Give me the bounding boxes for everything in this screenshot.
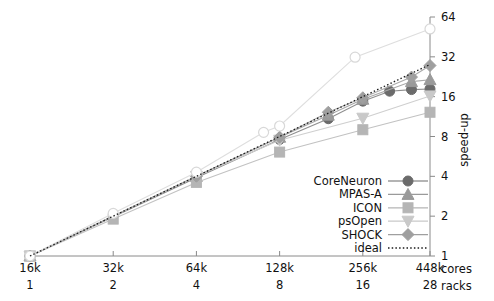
y-tick-marks [430,17,435,256]
data-point-marker [275,147,285,157]
data-point-marker [425,24,435,34]
legend-label: CoreNeuron [314,174,382,188]
legend-item-shock[interactable]: SHOCK [341,228,428,242]
x-tick-label-racks: 4 [193,278,200,292]
data-point-marker [402,229,414,241]
legend-label: ideal [354,241,382,255]
x-tick-labels: 16k132k264k4128k8256k16448k28 [19,261,444,292]
data-point-marker [350,52,360,62]
data-point-marker [358,125,368,135]
chart-canvas: 16k132k264k4128k8256k16448k28 1248163264… [0,0,494,301]
y-axis-title: speed-up [457,113,471,166]
y-tick-label: 16 [441,90,456,104]
data-point-marker [403,176,413,186]
x-axis-title-racks: racks [441,279,472,293]
y-tick-label: 64 [441,10,456,24]
legend-item-coreneuron[interactable]: CoreNeuron [314,174,428,188]
x-tick-label-cores: 32k [103,261,125,275]
data-point-marker [357,113,369,124]
y-tick-label: 2 [441,209,448,223]
x-axis-title-cores: cores [441,262,472,276]
x-tick-label-racks: 16 [356,278,371,292]
legend-item-icon[interactable]: ICON [353,201,428,215]
x-tick-label-cores: 256k [349,261,378,275]
y-tick-label: 4 [441,169,448,183]
y-tick-label: 1 [441,249,448,263]
speedup-chart: 16k132k264k4128k8256k16448k28 1248163264… [0,0,494,301]
x-tick-label-cores: 64k [186,261,208,275]
data-point-marker [191,167,201,177]
y-tick-labels: 1248163264 [441,10,456,263]
data-point-marker [425,107,435,117]
y-tick-label: 8 [441,130,448,144]
data-point-marker [259,127,269,137]
x-tick-label-racks: 1 [26,278,33,292]
data-point-marker [275,121,285,131]
x-tick-label-racks: 8 [276,278,283,292]
data-point-marker [424,74,436,85]
x-tick-label-cores: 16k [19,261,41,275]
legend-item-psopen[interactable]: psOpen [338,214,428,228]
y-tick-label: 32 [441,50,456,64]
data-point-marker [403,203,413,213]
x-tick-label-cores: 128k [265,261,294,275]
data-point-marker [25,251,35,261]
x-tick-label-racks: 28 [423,278,438,292]
data-point-marker [424,60,436,72]
legend-item-mpas-a[interactable]: MPAS-A [339,187,428,201]
legend-item-ideal[interactable]: ideal [354,241,428,255]
data-point-marker [108,208,118,218]
legend-label: MPAS-A [339,187,382,201]
legend-label: psOpen [338,214,382,228]
legend-label: SHOCK [341,228,382,242]
chart-legend: CoreNeuronMPAS-AICONpsOpenSHOCKideal [314,174,428,255]
legend-label: ICON [353,201,382,215]
x-tick-label-racks: 2 [110,278,117,292]
